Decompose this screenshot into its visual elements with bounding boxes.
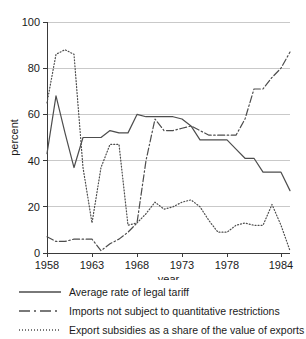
- legend-swatch-solid: [18, 286, 62, 298]
- legend-swatch-dashdot: [18, 305, 62, 317]
- legend-label-2: Export subsidies as a share of the value…: [69, 324, 304, 336]
- series-path-0: [47, 96, 290, 191]
- y-tick-label-60: 60: [28, 108, 40, 120]
- y-tick-label-100: 100: [22, 16, 40, 28]
- legend-label-0: Average rate of legal tariff: [69, 286, 189, 298]
- y-tick-label-20: 20: [28, 201, 40, 213]
- legend-swatch-dotted: [18, 324, 62, 336]
- x-tick-label-1968: 1968: [125, 259, 149, 271]
- x-axis-title: year: [158, 273, 180, 280]
- x-tick-label-1984: 1984: [269, 259, 293, 271]
- y-tick-label-0: 0: [34, 247, 40, 259]
- legend-item-imports-not-subject-to-quantitative-restrictions: Imports not subject to quantitative rest…: [18, 301, 300, 320]
- series-path-2: [47, 50, 290, 251]
- legend-item-export-subsidies-as-a-share-of-the-value-of-exports: Export subsidies as a share of the value…: [18, 320, 300, 339]
- y-axis-title: percent: [8, 119, 20, 156]
- chart-legend: Average rate of legal tariff Imports not…: [0, 282, 306, 339]
- plot-area: 020406080100195819631968197319781984year…: [0, 0, 306, 280]
- line-chart-svg: 020406080100195819631968197319781984year…: [0, 0, 306, 280]
- y-tick-label-80: 80: [28, 62, 40, 74]
- legend-item-average-rate-of-legal-tariff: Average rate of legal tariff: [18, 282, 300, 301]
- series-path-1: [47, 52, 290, 251]
- x-tick-label-1978: 1978: [215, 259, 239, 271]
- legend-label-1: Imports not subject to quantitative rest…: [69, 305, 280, 317]
- x-tick-label-1973: 1973: [170, 259, 194, 271]
- x-tick-label-1958: 1958: [35, 259, 59, 271]
- y-tick-label-40: 40: [28, 155, 40, 167]
- chart-figure: 020406080100195819631968197319781984year…: [0, 0, 306, 339]
- x-tick-label-1963: 1963: [80, 259, 104, 271]
